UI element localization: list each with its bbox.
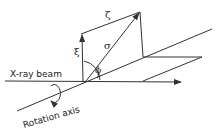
plane-edge-diag xyxy=(143,57,202,81)
zeta-label: ζ xyxy=(105,9,111,20)
reciprocal-vector-diagram: X-ray beam Rotation axis ζ ξ σ ϕ xyxy=(0,0,219,138)
xray-beam-label: X-ray beam xyxy=(10,69,62,79)
xray-beam-line xyxy=(5,81,181,82)
phi-label: ϕ xyxy=(95,65,101,75)
projection-line xyxy=(140,12,143,57)
xi-arrow xyxy=(82,35,83,81)
rotation-axis-label: Rotation axis xyxy=(22,104,81,130)
sigma-label: σ xyxy=(104,40,111,51)
xi-label: ξ xyxy=(74,46,80,57)
